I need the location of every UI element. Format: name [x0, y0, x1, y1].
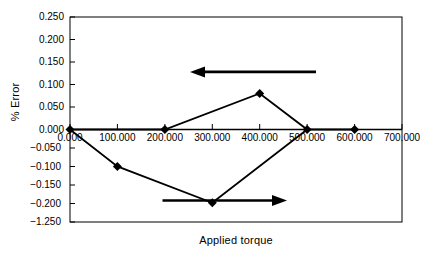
y-tick-label: 0.050 — [18, 102, 64, 112]
y-tick-label: 0.150 — [18, 57, 64, 67]
upper-arrow-annotation — [190, 66, 316, 77]
y-tick-label: −0.200 — [15, 199, 61, 209]
y-tick-label: −0.150 — [15, 180, 61, 190]
y-tick-label: −0.100 — [15, 162, 61, 172]
lower-arrow-annotation — [163, 195, 288, 206]
y-tick-marks — [70, 17, 75, 222]
y-tick-label: 0.250 — [18, 12, 64, 22]
y-axis-title: % Error — [9, 57, 21, 147]
y-tick-label: 0.100 — [18, 80, 64, 90]
y-tick-label: 0.200 — [18, 35, 64, 45]
plot-frame — [70, 17, 402, 222]
y-tick-label: −1.250 — [15, 217, 61, 227]
chart-figure: 0.250 0.200 0.150 0.100 0.050 0.000 −0.0… — [0, 0, 429, 258]
y-tick-label: −0.050 — [15, 143, 61, 153]
x-tick-label: 700.000 — [372, 133, 429, 143]
chart-canvas — [0, 0, 429, 258]
x-axis-title: Applied torque — [70, 234, 402, 246]
